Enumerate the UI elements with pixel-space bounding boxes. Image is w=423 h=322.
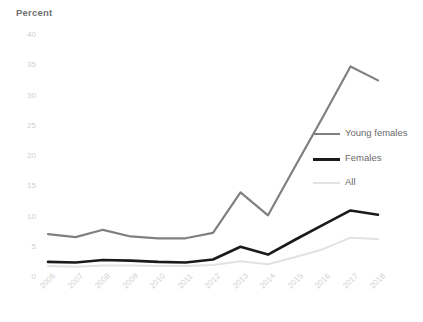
line-chart: Percent 0510152025303540 200620072008200…	[0, 0, 423, 322]
legend-swatch-females	[313, 158, 340, 161]
series-line-females	[48, 210, 378, 262]
legend-label-females: Females	[345, 152, 381, 163]
legend-label-all: All	[345, 176, 356, 187]
series-line-young-females	[48, 66, 378, 238]
legend-swatch-all	[313, 182, 340, 184]
legend-swatch-young-females	[313, 133, 340, 135]
legend-label-young-females: Young females	[345, 127, 408, 138]
series-line-all	[48, 238, 378, 267]
